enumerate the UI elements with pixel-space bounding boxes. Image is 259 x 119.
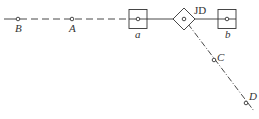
point-b-marker bbox=[16, 17, 20, 21]
label-JD: JD bbox=[194, 4, 206, 16]
label-D: D bbox=[248, 90, 257, 102]
label-C: C bbox=[217, 51, 225, 63]
label-A: A bbox=[68, 22, 76, 34]
line-jd-d-dashed bbox=[188, 24, 254, 111]
point-b-box-marker bbox=[225, 17, 229, 21]
label-a: a bbox=[135, 28, 141, 40]
point-a-box-marker bbox=[136, 17, 140, 21]
diagram-canvas: B A a JD b C D bbox=[0, 0, 259, 119]
point-a-marker bbox=[70, 17, 74, 21]
alignment-diagram: B A a JD b C D bbox=[0, 0, 259, 119]
label-b: b bbox=[225, 28, 231, 40]
point-c-marker bbox=[212, 58, 216, 62]
point-d-marker bbox=[244, 101, 248, 105]
label-B: B bbox=[15, 22, 22, 34]
point-jd-marker bbox=[182, 17, 186, 21]
